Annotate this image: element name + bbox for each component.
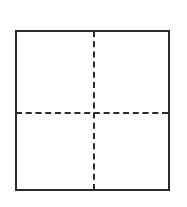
horizontal-dashed-divider-line [16, 112, 168, 114]
figure-canvas [0, 0, 187, 207]
vertical-dashed-divider-line [93, 31, 95, 190]
